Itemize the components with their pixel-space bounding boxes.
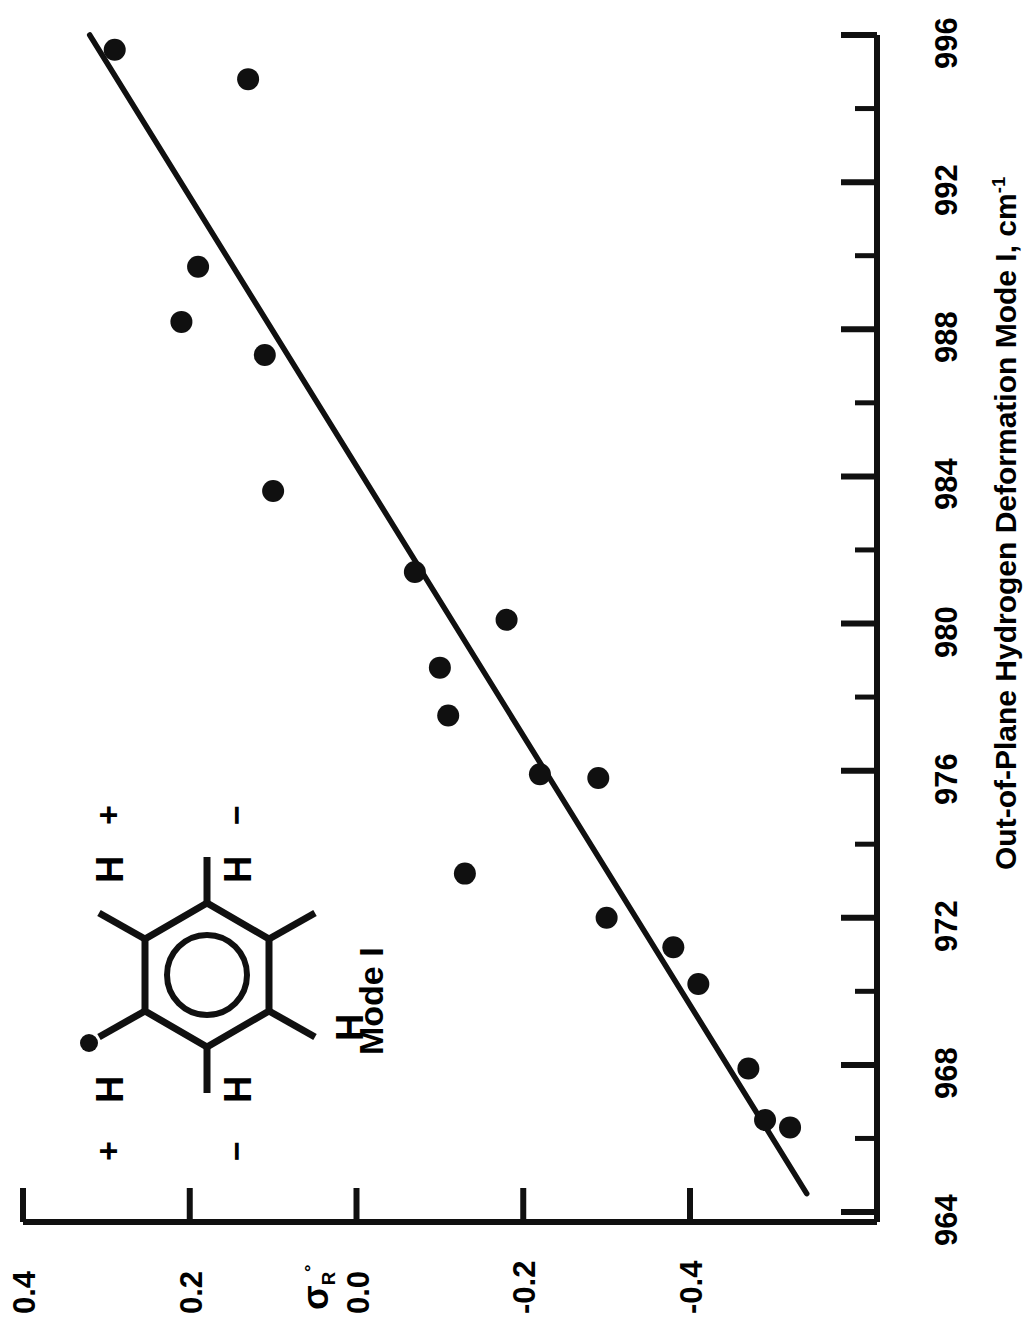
data-point <box>754 1109 776 1131</box>
molecule-hydrogen-label: H <box>89 1076 132 1103</box>
y-axis-ticks <box>23 1188 690 1222</box>
x-axis-tick-label: 968 <box>929 1047 965 1099</box>
molecule-hydrogen-label: H <box>217 856 260 883</box>
x-axis-tick-label: 972 <box>929 900 965 952</box>
data-point <box>404 561 426 583</box>
data-point <box>104 39 126 61</box>
x-axis-tick-label: 992 <box>929 164 965 216</box>
data-points-group <box>104 39 801 1139</box>
x-axis-title-superscript: -1 <box>988 177 1009 194</box>
x-axis-tick-label: 964 <box>929 1194 965 1246</box>
data-point <box>437 704 459 726</box>
molecule-hydrogen-label: H <box>217 1076 260 1103</box>
data-point <box>779 1116 801 1138</box>
molecule-hydrogen-label: H <box>329 1014 372 1041</box>
data-point <box>429 657 451 679</box>
data-point <box>254 344 276 366</box>
data-point <box>662 936 684 958</box>
data-point <box>587 767 609 789</box>
x-axis-tick-label: 980 <box>929 606 965 658</box>
x-axis-title-main: Out-of-Plane Hydrogen Deformation Mode I… <box>989 193 1022 870</box>
molecule-diagram <box>80 857 315 1093</box>
benzene-hexagon <box>145 903 269 1047</box>
x-axis-tick-label: 996 <box>929 17 965 69</box>
molecule-charge-sign: − <box>217 805 256 825</box>
substituent-dot-icon <box>80 1034 98 1052</box>
regression-line <box>90 35 807 1194</box>
bond-to-para <box>269 913 315 939</box>
y-axis-title-main: σ <box>295 1285 336 1310</box>
fit-line-group <box>90 35 807 1194</box>
axes-group <box>23 35 877 1222</box>
y-axis-tick-label: -0.2 <box>507 1261 543 1314</box>
bond-to-ortho-top <box>99 913 145 939</box>
x-axis-ticks <box>841 35 877 1212</box>
y-axis-tick-label: -0.4 <box>674 1261 710 1314</box>
data-point <box>687 973 709 995</box>
x-axis-tick-label: 976 <box>929 753 965 805</box>
x-axis-tick-label: 988 <box>929 312 965 364</box>
x-axis-title: Out-of-Plane Hydrogen Deformation Mode I… <box>988 177 1023 870</box>
y-axis-title-subscript: R <box>318 1272 339 1285</box>
y-axis-tick-label: 0.4 <box>7 1271 43 1314</box>
data-point <box>737 1058 759 1080</box>
data-point <box>496 609 518 631</box>
molecule-hydrogen-label: H <box>89 856 132 883</box>
y-axis-title-superscript: ° <box>300 1264 321 1271</box>
bond-to-meta-bottom <box>269 1011 315 1037</box>
data-point <box>529 763 551 785</box>
data-point <box>187 256 209 278</box>
data-point <box>170 311 192 333</box>
data-point <box>454 863 476 885</box>
y-axis-tick-label: 0.2 <box>174 1271 210 1314</box>
bond-to-substituent <box>99 1011 145 1037</box>
molecule-charge-sign: − <box>217 1141 256 1161</box>
data-point <box>262 480 284 502</box>
x-axis-tick-label: 984 <box>929 459 965 511</box>
data-point <box>596 907 618 929</box>
y-axis-title: σR° <box>295 1264 340 1310</box>
data-point <box>237 68 259 90</box>
aromatic-circle <box>167 935 247 1015</box>
y-axis-tick-label: 0.0 <box>341 1271 377 1314</box>
molecule-charge-sign: + <box>89 1141 128 1161</box>
molecule-charge-sign: + <box>89 805 128 825</box>
